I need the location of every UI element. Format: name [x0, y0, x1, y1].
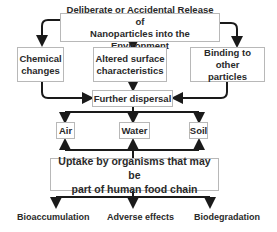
release-node: Deliberate or Accidental Release of Nano… — [60, 13, 220, 42]
air-node: Air — [56, 122, 75, 139]
uptake-line2: part of human food chain — [72, 183, 198, 195]
dispersal-node: Further dispersal — [92, 90, 173, 107]
adverse-effects-label: Adverse effects — [107, 212, 174, 222]
bioaccumulation-label: Bioaccumulation — [17, 212, 90, 222]
soil-label: Soil — [190, 125, 207, 137]
uptake-line1: Uptake by organisms that may be — [58, 155, 210, 181]
chemical-line2: changes — [21, 65, 60, 76]
dispersal-label: Further dispersal — [94, 93, 172, 105]
soil-node: Soil — [189, 122, 208, 139]
biodegradation-label: Biodegradation — [194, 212, 260, 222]
water-node: Water — [119, 122, 150, 139]
altered-line2: characteristics — [96, 65, 163, 76]
altered-line1: Altered surface — [95, 53, 164, 64]
air-label: Air — [59, 125, 72, 137]
release-line1: Deliberate or Accidental Release of — [67, 4, 214, 27]
binding-line2: particles — [208, 71, 247, 82]
binding-line1: Binding to other — [204, 47, 251, 70]
chemical-changes-node: Chemical changes — [17, 47, 64, 82]
chemical-line1: Chemical — [19, 53, 61, 64]
water-label: Water — [121, 125, 147, 137]
altered-surface-node: Altered surface characteristics — [93, 47, 167, 82]
binding-node: Binding to other particles — [190, 47, 265, 82]
uptake-node: Uptake by organisms that may be part of … — [50, 158, 219, 191]
